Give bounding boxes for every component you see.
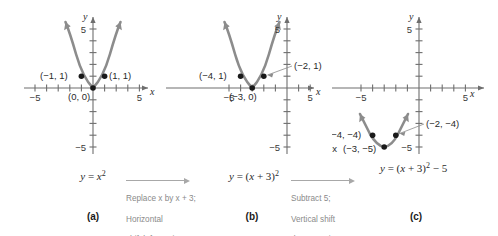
panel-b-label-neg2-1: (−2, 1) <box>294 60 322 71</box>
panel-c-vertex-word: Vertex <box>332 143 337 154</box>
panel-b-label-neg4-1: (−4, 1) <box>199 70 227 81</box>
panel-c-label-neg2-neg4: (−2, −4) <box>426 118 459 129</box>
panel-a-point-origin <box>90 85 96 91</box>
panel-b-caption: (b) <box>246 211 259 222</box>
transition-b-to-c: Subtract 5; Vertical shift down 5 units <box>291 167 357 236</box>
panel-c-ytick-neg5: −5 <box>401 142 412 153</box>
panel-b-ytick-pos5: 5 <box>275 24 280 35</box>
panel-b-point-neg4-1 <box>238 73 244 79</box>
panel-b-leader-neg2-1 <box>268 66 293 75</box>
panel-a-ytick-pos5: 5 <box>81 24 86 35</box>
panel-a-axes <box>24 17 148 154</box>
panel-b-point-vertex <box>249 85 255 91</box>
panel-c-point-neg2-neg4 <box>393 132 399 138</box>
transition-b-to-c-line1: Subtract 5; <box>291 194 357 204</box>
transition-a-to-b-arrow-icon <box>126 177 192 184</box>
panel-b-xtick-neg5: −5 <box>224 92 235 103</box>
panel-c-point-vertex <box>381 144 387 150</box>
panel-c-xtick-pos5: 5 <box>463 92 468 103</box>
panel-c-xaxis-label: x <box>469 88 475 99</box>
transition-a-to-b-line2: Horizontal <box>126 215 196 225</box>
panel-c-ytick-pos5: 5 <box>407 24 412 35</box>
transition-b-to-c-line2: Vertical shift <box>291 215 357 225</box>
panel-a-label-neg1-1: (−1, 1) <box>40 70 68 81</box>
panel-a-label-1-1: (1, 1) <box>109 70 131 81</box>
panel-c-label-neg4-neg4: (−4, −4) <box>332 129 361 140</box>
panel-a-label-origin: (0, 0) <box>68 91 90 102</box>
panel-c-caption: (c) <box>410 211 422 222</box>
transition-a-to-b: Replace x by x + 3; Horizontal shift lef… <box>126 167 196 236</box>
panel-a-equation: y = x2 <box>79 169 106 182</box>
panel-b-equation: y = (x + 3)2 <box>228 169 279 183</box>
panel-a-caption: (a) <box>87 211 99 222</box>
panel-a-xaxis-label: x <box>149 86 155 97</box>
panel-a-xtick-neg5: −5 <box>30 92 41 103</box>
transition-b-to-c-arrow-icon <box>291 177 357 184</box>
transition-a-to-b-line1: Replace x by x + 3; <box>126 194 196 204</box>
panel-b-xtick-pos5: 5 <box>308 92 313 103</box>
panel-b-xaxis-label: x <box>315 86 321 97</box>
panel-c-xtick-neg5: −5 <box>356 92 367 103</box>
panel-b-axes <box>166 17 314 154</box>
panel-b-ytick-neg5: −5 <box>269 142 280 153</box>
panel-a-point-neg1-1 <box>79 73 85 79</box>
panel-b-point-neg2-1 <box>261 73 267 79</box>
panel-c-point-neg4-neg4 <box>370 132 376 138</box>
panel-b-curve <box>225 22 280 88</box>
panel-c-label-vertex: (−3, −5) <box>343 143 376 154</box>
panel-c-equation: y = (x + 3)2 − 5 <box>379 161 448 175</box>
panel-a-point-1-1 <box>102 73 108 79</box>
parabola-transformation-figure: (−1, 1) (1, 1) (0, 0) −5 5 5 −5 x y y = … <box>0 0 498 236</box>
transition-b-to-c-line3: down 5 units <box>291 235 357 236</box>
panel-a-yaxis-label: y <box>82 11 88 22</box>
panel-a-ytick-neg5: −5 <box>75 142 86 153</box>
panel-b-yaxis-label: y <box>276 11 282 22</box>
panel-c-yaxis-label: y <box>408 11 414 22</box>
panel-a-xtick-pos5: 5 <box>137 92 142 103</box>
transition-a-to-b-line3: shift left 3 units <box>126 235 196 236</box>
